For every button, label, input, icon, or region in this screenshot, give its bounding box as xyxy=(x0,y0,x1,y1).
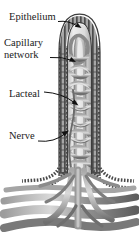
label-capillary-network: Capillary network xyxy=(4,37,43,60)
label-epithelium: Epithelium xyxy=(9,11,56,23)
label-capillary-line2: network xyxy=(4,49,43,61)
label-lacteal: Lacteal xyxy=(9,88,40,100)
label-nerve: Nerve xyxy=(9,130,35,142)
label-capillary-line1: Capillary xyxy=(4,37,43,49)
villus-diagram: Epithelium Capillary network Lacteal Ner… xyxy=(0,0,139,245)
